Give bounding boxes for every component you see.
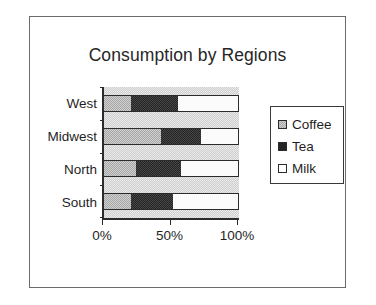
- y-axis-tick: [100, 185, 104, 186]
- milk-swatch: [278, 164, 287, 173]
- stacked-bar[interactable]: [104, 193, 239, 210]
- stacked-bar[interactable]: [104, 95, 239, 112]
- y-axis-tick: [100, 120, 104, 121]
- legend-label: Tea: [292, 139, 314, 154]
- legend-label: Coffee: [292, 117, 332, 132]
- bar-group: West: [104, 95, 239, 112]
- bar-group: North: [104, 160, 239, 177]
- x-axis-tick: [170, 220, 171, 225]
- category-label: Midwest: [47, 129, 97, 144]
- stacked-bar[interactable]: [104, 160, 239, 177]
- bar-group: Midwest: [104, 128, 239, 145]
- bar-segment-coffee[interactable]: [104, 193, 131, 210]
- x-axis-tick: [102, 220, 103, 225]
- plot-area: WestMidwestNorthSouth: [102, 87, 239, 218]
- category-label: North: [64, 161, 97, 176]
- bar-segment-coffee[interactable]: [104, 95, 131, 112]
- legend-item[interactable]: Milk: [278, 157, 343, 179]
- chart-title: Consumption by Regions: [30, 45, 345, 66]
- chart-legend: CoffeeTeaMilk: [270, 106, 344, 184]
- bar-segment-coffee[interactable]: [104, 160, 136, 177]
- legend-label: Milk: [292, 161, 316, 176]
- stacked-bar[interactable]: [104, 128, 239, 145]
- bar-group: South: [104, 193, 239, 210]
- bar-segment-milk[interactable]: [173, 193, 239, 210]
- bar-segment-tea[interactable]: [161, 128, 202, 145]
- x-axis: 0%50%100%: [102, 218, 239, 220]
- category-label: West: [66, 96, 97, 111]
- bar-segment-tea[interactable]: [131, 193, 173, 210]
- figure-frame: Consumption by Regions WestMidwestNorthS…: [29, 16, 346, 288]
- bar-segment-milk[interactable]: [178, 95, 239, 112]
- bar-segment-coffee[interactable]: [104, 128, 161, 145]
- bar-segment-tea[interactable]: [136, 160, 181, 177]
- x-axis-label: 100%: [220, 228, 255, 243]
- coffee-swatch: [278, 120, 287, 129]
- bar-segment-milk[interactable]: [181, 160, 239, 177]
- category-label: South: [62, 194, 97, 209]
- legend-item[interactable]: Tea: [278, 135, 343, 157]
- tea-swatch: [278, 142, 287, 151]
- legend-item[interactable]: Coffee: [278, 113, 343, 135]
- bar-segment-tea[interactable]: [131, 95, 178, 112]
- y-axis-tick: [100, 87, 104, 88]
- x-axis-tick: [237, 220, 238, 225]
- bar-segment-milk[interactable]: [201, 128, 239, 145]
- x-axis-label: 50%: [156, 228, 183, 243]
- x-axis-label: 0%: [92, 228, 112, 243]
- y-axis-tick: [100, 153, 104, 154]
